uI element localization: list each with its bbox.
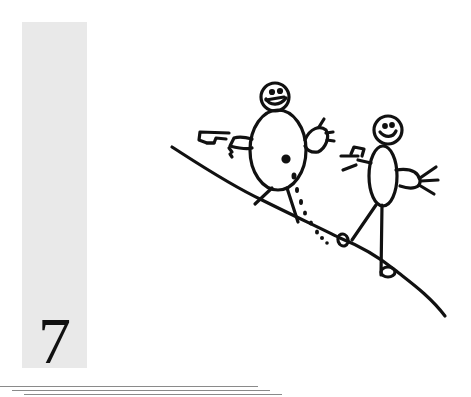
- stick-figure-illustration: [0, 0, 471, 397]
- right-figure-head: [374, 116, 402, 144]
- right-figure-body: [369, 146, 397, 206]
- left-figure: [199, 83, 334, 245]
- left-figure-body: [250, 110, 306, 190]
- bottom-rule-3: [24, 394, 282, 395]
- bottom-rule-2: [12, 390, 270, 391]
- right-figure: [336, 116, 438, 277]
- hill-line: [172, 147, 445, 316]
- bottom-rule-1: [0, 386, 258, 387]
